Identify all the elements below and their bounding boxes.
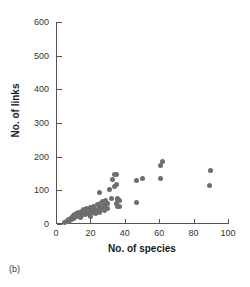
x-tick-label: 20: [85, 228, 95, 238]
y-tick-label: 200: [34, 152, 49, 162]
x-tick-label: 40: [120, 228, 130, 238]
data-point: [114, 172, 119, 177]
y-tick-label: 100: [34, 185, 49, 195]
y-tick-mark: [57, 190, 62, 191]
y-tick-label: 0: [44, 219, 49, 229]
x-tick-mark: [194, 219, 195, 224]
x-tick-label: 0: [53, 228, 58, 238]
y-tick-mark: [57, 224, 62, 225]
data-point: [97, 190, 102, 195]
data-point: [207, 183, 212, 188]
data-point: [107, 187, 112, 192]
y-tick-mark: [57, 157, 62, 158]
y-tick-mark: [57, 123, 62, 124]
data-point: [134, 178, 139, 183]
x-axis-label: No. of species: [56, 243, 228, 254]
data-point: [117, 204, 122, 209]
y-tick-label: 500: [34, 51, 49, 61]
x-tick-mark: [90, 219, 91, 224]
data-point: [117, 198, 122, 203]
y-tick-mark: [57, 89, 62, 90]
data-point: [160, 159, 165, 164]
plot-area: 0100200300400500600 020406080100: [56, 22, 228, 224]
x-axis-spine: [56, 223, 228, 224]
data-point: [158, 176, 163, 181]
y-tick-label: 400: [34, 84, 49, 94]
x-tick-label: 60: [154, 228, 164, 238]
x-tick-label: 80: [189, 228, 199, 238]
data-point: [134, 200, 139, 205]
x-tick-mark: [228, 219, 229, 224]
data-point: [140, 176, 145, 181]
data-point: [114, 182, 119, 187]
data-point: [105, 206, 110, 211]
data-point: [109, 196, 114, 201]
data-point: [88, 214, 93, 219]
y-tick-mark: [57, 56, 62, 57]
x-tick-mark: [159, 219, 160, 224]
y-tick-label: 600: [34, 17, 49, 27]
y-axis-label: No. of links: [10, 56, 21, 166]
scatter-plot-figure: 0100200300400500600 020406080100 No. of …: [0, 0, 250, 287]
y-tick-mark: [57, 22, 62, 23]
panel-caption: (b): [9, 264, 20, 274]
x-tick-mark: [125, 219, 126, 224]
x-tick-mark: [56, 219, 57, 224]
data-point: [208, 168, 213, 173]
x-tick-label: 100: [220, 228, 235, 238]
y-tick-label: 300: [34, 118, 49, 128]
data-point: [105, 201, 110, 206]
